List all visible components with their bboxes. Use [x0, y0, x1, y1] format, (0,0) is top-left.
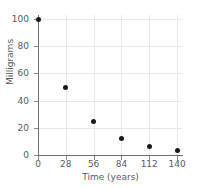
y-tick-label: 60	[18, 69, 29, 78]
gridline-horizontal	[38, 73, 182, 74]
y-tick-mark	[34, 73, 38, 74]
x-tick-label: 84	[106, 160, 136, 169]
data-point	[91, 119, 96, 124]
gridline-horizontal	[38, 46, 182, 47]
scatter-chart-figure: Milligrams Time (years) 0204060801000285…	[0, 0, 201, 189]
y-tick-label: 100	[12, 15, 29, 24]
data-point	[119, 136, 124, 141]
x-axis-spine	[38, 155, 183, 156]
y-tick-mark	[34, 101, 38, 102]
data-point	[175, 148, 180, 153]
data-point	[36, 17, 41, 22]
gridline-horizontal	[38, 101, 182, 102]
y-tick-label: 20	[18, 124, 29, 133]
x-tick-label: 0	[23, 160, 53, 169]
y-tick-label: 0	[23, 151, 29, 160]
gridline-vertical	[121, 15, 122, 155]
gridline-horizontal	[38, 128, 182, 129]
x-tick-label: 140	[162, 160, 192, 169]
y-axis-title: Milligrams	[5, 27, 15, 97]
y-tick-mark	[34, 128, 38, 129]
gridline-vertical	[177, 15, 178, 155]
gridline-vertical	[149, 15, 150, 155]
data-point	[147, 144, 152, 149]
data-point	[63, 85, 68, 90]
x-tick-label: 112	[134, 160, 164, 169]
y-tick-label: 80	[18, 42, 29, 51]
y-axis-spine	[38, 15, 39, 156]
gridline-vertical	[94, 15, 95, 155]
plot-area	[38, 15, 182, 155]
gridline-horizontal	[38, 19, 182, 20]
x-axis-title: Time (years)	[38, 172, 183, 182]
x-tick-label: 56	[79, 160, 109, 169]
y-tick-label: 40	[18, 97, 29, 106]
y-tick-mark	[34, 46, 38, 47]
x-tick-label: 28	[51, 160, 81, 169]
